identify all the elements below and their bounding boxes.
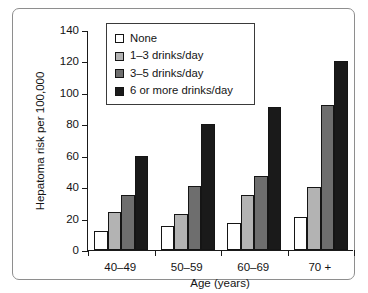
- x-axis-tick: [221, 250, 222, 256]
- legend-swatch-icon: [115, 34, 124, 43]
- legend-item: 1–3 drinks/day: [115, 48, 246, 65]
- bar: [334, 61, 348, 250]
- bar: [321, 105, 335, 250]
- bar: [307, 187, 321, 250]
- y-axis-tick-label: 140: [60, 25, 79, 37]
- y-axis-tick-label: 120: [60, 57, 79, 69]
- bar: [121, 195, 135, 250]
- bar: [227, 223, 241, 250]
- x-axis-tick: [155, 250, 156, 256]
- legend-item: None: [115, 30, 246, 47]
- legend-item-label: 6 or more drinks/day: [130, 85, 233, 96]
- bar: [108, 212, 122, 250]
- bar: [94, 231, 108, 250]
- legend-item: 6 or more drinks/day: [115, 83, 246, 100]
- legend-item: 3–5 drinks/day: [115, 65, 246, 82]
- y-axis-tick: [82, 31, 88, 32]
- bar: [174, 214, 188, 250]
- legend-swatch-icon: [115, 87, 124, 96]
- bar: [241, 195, 255, 250]
- x-axis-category-label: 70 +: [308, 261, 331, 273]
- x-axis-title: Age (years): [87, 277, 353, 289]
- x-axis-category-label: 60–69: [237, 261, 269, 273]
- x-axis-tick: [88, 250, 89, 256]
- x-axis-tick: [288, 250, 289, 256]
- bar: [161, 226, 175, 250]
- legend-swatch-icon: [115, 69, 124, 78]
- legend-swatch-icon: [115, 52, 124, 61]
- y-axis-tick: [82, 188, 88, 189]
- bar: [188, 186, 202, 250]
- y-axis-tick: [82, 62, 88, 63]
- x-axis-category-label: 40–49: [104, 261, 136, 273]
- bar: [268, 107, 282, 250]
- bar: [135, 156, 149, 250]
- bar: [254, 176, 268, 250]
- y-axis-tick: [82, 220, 88, 221]
- legend-item-label: 3–5 drinks/day: [130, 68, 203, 79]
- y-axis-tick-label: 40: [66, 182, 79, 194]
- x-axis-tick: [354, 250, 355, 256]
- y-axis-tick-label: 20: [66, 214, 79, 226]
- chart-screenshot: Hepatoma risk per 100,000 02040608010012…: [0, 0, 368, 293]
- y-axis-tick: [82, 125, 88, 126]
- y-axis-tick: [82, 94, 88, 95]
- y-axis-tick-label: 100: [60, 88, 79, 100]
- chart-legend: None1–3 drinks/day3–5 drinks/day6 or mor…: [106, 23, 255, 105]
- legend-item-label: 1–3 drinks/day: [130, 50, 203, 61]
- y-axis-tick-label: 0: [73, 245, 79, 257]
- legend-item-label: None: [130, 33, 157, 44]
- x-axis-category-label: 50–59: [171, 261, 203, 273]
- bar: [294, 217, 308, 250]
- y-axis-title: Hepatoma risk per 100,000: [33, 31, 48, 251]
- y-axis-tick-label: 80: [66, 120, 79, 132]
- y-axis-tick-label: 60: [66, 151, 79, 163]
- y-axis-tick: [82, 157, 88, 158]
- bar: [201, 124, 215, 250]
- chart-frame: Hepatoma risk per 100,000 02040608010012…: [12, 8, 355, 280]
